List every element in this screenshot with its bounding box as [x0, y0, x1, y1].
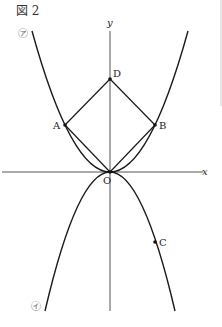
segment-AD: [65, 79, 110, 125]
point-A: [63, 123, 67, 127]
point-B: [153, 123, 157, 127]
label-B: B: [159, 120, 166, 131]
point-C: [153, 240, 157, 244]
point-D: [108, 77, 112, 81]
label-A: A: [52, 120, 61, 131]
x-axis-label: x: [202, 166, 208, 177]
label-C: C: [159, 237, 167, 248]
y-axis-label: y: [106, 17, 113, 28]
segment-DB: [110, 79, 155, 125]
point-O: [108, 170, 112, 174]
coordinate-diagram: y x D A B O C ㋐ ㋑: [0, 0, 222, 327]
label-D: D: [113, 68, 121, 79]
label-O: O: [103, 175, 111, 186]
curve-label-a: ㋐: [18, 28, 28, 39]
segment-AO: [65, 125, 110, 172]
segment-BO: [110, 125, 155, 172]
curve-label-i: ㋑: [31, 301, 41, 312]
